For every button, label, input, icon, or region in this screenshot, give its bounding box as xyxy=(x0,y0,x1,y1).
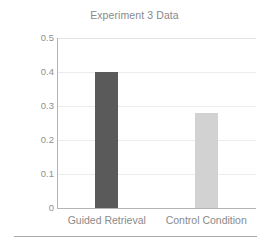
bar xyxy=(195,113,218,208)
y-axis-tick-label: 0.1 xyxy=(28,169,54,179)
bottom-divider xyxy=(14,236,257,237)
y-axis-tick-labels: 00.10.20.30.40.5 xyxy=(26,38,54,208)
gridline xyxy=(57,106,256,107)
y-axis-spine xyxy=(57,38,58,209)
x-axis-spine xyxy=(57,208,256,209)
gridline xyxy=(57,140,256,141)
y-axis-tick-label: 0.5 xyxy=(28,33,54,43)
y-axis-tick-label: 0.2 xyxy=(28,135,54,145)
chart-figure: Experiment 3 Data Assessment Performance… xyxy=(0,0,269,248)
y-axis-tick-label: 0.3 xyxy=(28,101,54,111)
x-axis-tick-labels: Guided RetrievalControl Condition xyxy=(57,214,256,230)
bar xyxy=(95,72,118,208)
y-axis-tick-label: 0 xyxy=(28,203,54,213)
y-axis-tick-label: 0.4 xyxy=(28,67,54,77)
x-axis-tick-label: Control Condition xyxy=(146,214,266,226)
gridline xyxy=(57,72,256,73)
gridline xyxy=(57,38,256,39)
chart-title: Experiment 3 Data xyxy=(0,9,269,21)
gridline xyxy=(57,174,256,175)
plot-area xyxy=(57,38,256,208)
